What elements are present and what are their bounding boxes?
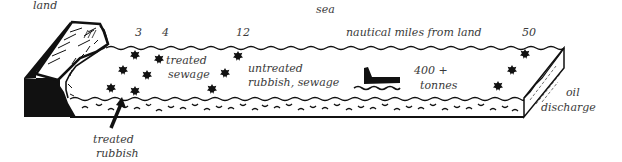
star-burst-icon bbox=[220, 68, 230, 78]
ocean-dumping-diagram: land sea nautical miles from land 3 4 12… bbox=[0, 0, 622, 162]
tonnage-label-line2: tonnes bbox=[420, 79, 457, 92]
marker-50nm: 50 bbox=[522, 26, 536, 39]
star-burst-icon bbox=[520, 49, 530, 59]
star-burst-icon bbox=[207, 84, 217, 94]
untreated-label-line2: rubbish, sewage bbox=[248, 76, 339, 89]
treated-sewage-label-line2: sewage bbox=[168, 68, 210, 81]
sea-far-edge bbox=[106, 47, 564, 50]
star-burst-icon bbox=[106, 83, 116, 93]
star-burst-icon bbox=[493, 81, 503, 91]
land-label: land bbox=[33, 0, 57, 12]
untreated-label-line1: untreated bbox=[248, 62, 303, 75]
star-burst-icon bbox=[233, 51, 243, 61]
star-burst-icon bbox=[118, 65, 128, 75]
star-burst-icon bbox=[507, 65, 517, 75]
ship-icon bbox=[354, 67, 400, 90]
tonnage-label-line1: 400 + bbox=[414, 64, 448, 77]
arrow-up-icon bbox=[111, 97, 126, 128]
marker-3nm: 3 bbox=[135, 26, 142, 39]
axis-label: nautical miles from land bbox=[346, 26, 482, 39]
marker-4nm: 4 bbox=[162, 26, 169, 39]
treated-rubbish-label-line1: treated bbox=[93, 133, 134, 146]
star-burst-icon bbox=[154, 54, 164, 64]
oil-discharge-label-line2: discharge bbox=[541, 101, 596, 114]
oil-discharge-label-line1: oil bbox=[566, 86, 580, 99]
water-texture bbox=[82, 104, 518, 111]
star-burst-icon bbox=[130, 50, 140, 60]
sea-label: sea bbox=[316, 3, 335, 16]
star-burst-icon bbox=[130, 86, 140, 96]
star-burst-icon bbox=[142, 70, 152, 80]
treated-sewage-label-line1: treated bbox=[166, 54, 207, 67]
treated-rubbish-label-line2: rubbish bbox=[96, 147, 139, 160]
sea-near-edge bbox=[70, 98, 524, 101]
marker-12nm: 12 bbox=[236, 26, 250, 39]
land-block bbox=[24, 22, 108, 117]
